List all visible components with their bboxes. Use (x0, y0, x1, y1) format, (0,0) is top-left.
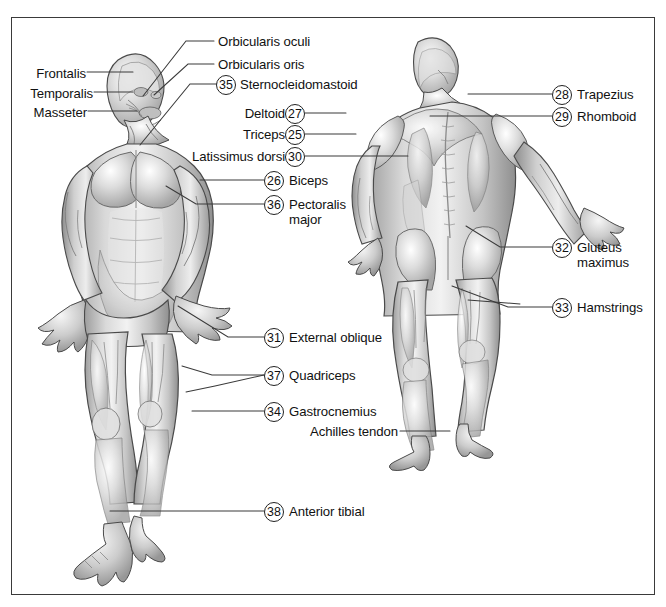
number-26: 26 (264, 171, 284, 191)
number-35: 35 (216, 75, 236, 95)
number-29: 29 (552, 107, 572, 127)
number-25: 25 (285, 125, 305, 145)
label-frontalis: Frontalis (0, 66, 86, 81)
label-achilles-tendon: Achilles tendon (270, 424, 398, 439)
number-31: 31 (264, 328, 284, 348)
label-temporalis: Temporalis (0, 86, 93, 101)
label-sternocleidomastoid: Sternocleidomastoid (240, 77, 358, 92)
label-orbicularis-oris: Orbicularis oris (218, 57, 304, 72)
label-pectoralis-major: Pectoralis major (289, 197, 359, 227)
number-37: 37 (264, 366, 284, 386)
number-34: 34 (264, 402, 284, 422)
label-masseter: Masseter (0, 105, 87, 120)
label-latissimus-dorsi: Latissimus dorsi (140, 149, 285, 164)
label-quadriceps: Quadriceps (289, 368, 355, 383)
number-36: 36 (264, 195, 284, 215)
label-orbicularis-oculi: Orbicularis oculi (218, 34, 310, 49)
anatomy-figure: Frontalis Temporalis Masseter Orbiculari… (0, 0, 666, 607)
number-32: 32 (552, 238, 572, 258)
label-external-oblique: External oblique (289, 330, 382, 345)
label-rhomboid: Rhomboid (577, 109, 636, 124)
label-triceps: Triceps (180, 127, 285, 142)
label-anterior-tibial: Anterior tibial (289, 504, 364, 519)
label-deltoid: Deltoid (180, 106, 285, 121)
label-gastrocnemius: Gastrocnemius (289, 404, 376, 419)
label-gluteus-maximus: Gluteus maximus (577, 240, 643, 270)
number-33: 33 (552, 298, 572, 318)
number-38: 38 (264, 502, 284, 522)
number-28: 28 (552, 85, 572, 105)
label-hamstrings: Hamstrings (577, 300, 643, 315)
number-30: 30 (285, 147, 305, 167)
label-biceps: Biceps (289, 173, 328, 188)
label-trapezius: Trapezius (577, 87, 634, 102)
number-27: 27 (285, 104, 305, 124)
